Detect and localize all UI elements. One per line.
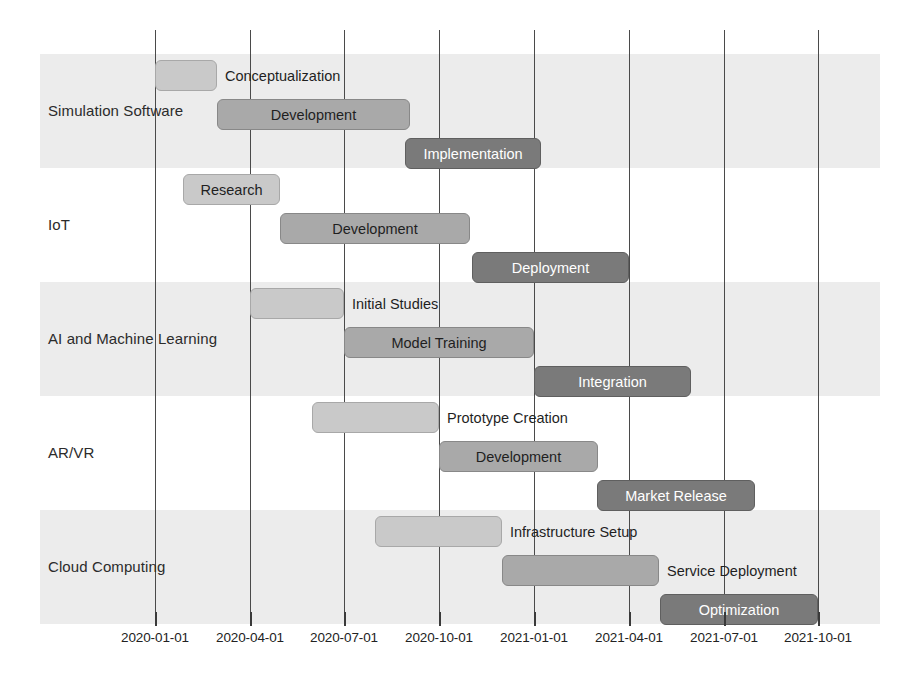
task-bar-label: Optimization xyxy=(699,602,780,618)
x-axis-tick-label: 2021-01-01 xyxy=(500,630,568,645)
x-axis-tick-label: 2021-07-01 xyxy=(690,630,758,645)
task-bar-label: Development xyxy=(271,107,356,123)
task-bar[interactable]: Model Training xyxy=(344,327,534,358)
tick-mark-2021-10-01 xyxy=(818,612,820,626)
x-axis-tick-label: 2020-01-01 xyxy=(121,630,189,645)
task-bar-label: Initial Studies xyxy=(352,296,438,312)
task-bar-label: Development xyxy=(332,221,417,237)
tick-mark-2020-01-01 xyxy=(155,612,157,626)
task-bar[interactable] xyxy=(312,402,439,433)
plot-area: ConceptualizationDevelopmentImplementati… xyxy=(0,0,920,681)
task-bar[interactable]: Market Release xyxy=(597,480,755,511)
task-bar[interactable]: Development xyxy=(439,441,598,472)
tick-mark-2021-01-01 xyxy=(534,612,536,626)
task-bar-label: Deployment xyxy=(512,260,589,276)
task-bar-label: Implementation xyxy=(423,146,522,162)
x-axis-tick-label: 2020-07-01 xyxy=(310,630,378,645)
tick-mark-2021-04-01 xyxy=(629,612,631,626)
gridline-2021-07-01 xyxy=(724,30,725,625)
category-label-cloud-computing: Cloud Computing xyxy=(48,558,165,575)
category-label-simulation-software: Simulation Software xyxy=(48,102,183,119)
task-bar[interactable]: Development xyxy=(280,213,470,244)
task-bar-label: Development xyxy=(476,449,561,465)
task-bar-label: Conceptualization xyxy=(225,68,340,84)
task-bar-label: Market Release xyxy=(625,488,727,504)
category-label-iot: IoT xyxy=(48,216,70,233)
task-bar[interactable]: Research xyxy=(183,174,280,205)
x-axis-tick-label: 2021-10-01 xyxy=(784,630,852,645)
task-bar[interactable] xyxy=(502,555,659,586)
task-bar-label: Prototype Creation xyxy=(447,410,568,426)
tick-mark-2020-07-01 xyxy=(344,612,346,626)
tick-mark-2020-04-01 xyxy=(250,612,252,626)
gridline-2021-10-01 xyxy=(818,30,819,625)
gantt-chart: ConceptualizationDevelopmentImplementati… xyxy=(0,0,920,681)
task-bar-label: Infrastructure Setup xyxy=(510,524,637,540)
x-axis-tick-label: 2020-10-01 xyxy=(405,630,473,645)
category-label-ar-vr: AR/VR xyxy=(48,444,94,461)
task-bar[interactable]: Implementation xyxy=(405,138,541,169)
task-bar-label: Service Deployment xyxy=(667,563,797,579)
x-axis-tick-label: 2021-04-01 xyxy=(595,630,663,645)
tick-mark-2020-10-01 xyxy=(439,612,441,626)
gridline-2020-01-01 xyxy=(155,30,156,625)
task-bar-label: Research xyxy=(200,182,262,198)
task-bar[interactable] xyxy=(250,288,344,319)
tick-mark-2021-07-01 xyxy=(724,612,726,626)
task-bar-label: Model Training xyxy=(391,335,486,351)
x-axis-tick-label: 2020-04-01 xyxy=(216,630,284,645)
task-bar[interactable]: Development xyxy=(217,99,410,130)
task-bar-label: Integration xyxy=(578,374,647,390)
task-bar[interactable] xyxy=(155,60,217,91)
task-bar[interactable]: Integration xyxy=(534,366,691,397)
category-label-ai-and-machine-learning: AI and Machine Learning xyxy=(48,330,217,347)
task-bar[interactable] xyxy=(375,516,502,547)
task-bar[interactable]: Optimization xyxy=(660,594,818,625)
task-bar[interactable]: Deployment xyxy=(472,252,629,283)
